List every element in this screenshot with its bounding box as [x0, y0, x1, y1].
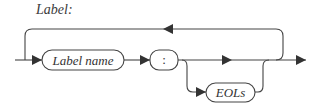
- node-eols-text: EOLs: [215, 85, 246, 100]
- arrow-exit: [296, 55, 306, 65]
- diagram-title: Label:: [36, 2, 73, 18]
- eols-branch-return: [255, 60, 269, 92]
- eols-branch-down: [182, 60, 206, 92]
- syntax-diagram: Label:: [0, 0, 320, 111]
- arrow-into-eols: [196, 87, 206, 97]
- arrow-into-label-name: [32, 55, 42, 65]
- node-label-name-text: Label name: [51, 53, 113, 68]
- node-label-name: Label name: [42, 50, 124, 70]
- arrow-into-colon: [140, 55, 150, 65]
- node-colon: :: [150, 50, 178, 70]
- arrow-repeat-loop: [163, 24, 173, 34]
- node-colon-text: :: [162, 52, 166, 67]
- node-eols: EOLs: [206, 83, 255, 102]
- arrow-main-line: [222, 55, 232, 65]
